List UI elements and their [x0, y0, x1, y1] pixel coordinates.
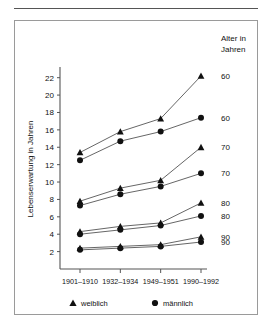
y-axis-tick-label: 2	[50, 248, 55, 257]
triangle-marker-icon	[198, 200, 205, 206]
y-axis-tick-label: 6	[50, 213, 55, 222]
circle-marker-icon	[117, 138, 123, 144]
figure-page: Alter inJahren246810121416182022Lebenser…	[0, 0, 272, 333]
y-axis-tick-label: 10	[45, 178, 54, 187]
circle-marker-icon	[158, 129, 164, 135]
circle-marker-icon	[158, 223, 164, 229]
y-axis-tick-label: 4	[50, 230, 55, 239]
series-line	[80, 173, 201, 205]
y-axis-title: Lebenserwartung in Jahren	[26, 121, 35, 218]
series-right-age-label: 60	[221, 72, 230, 81]
triangle-marker-icon	[198, 73, 205, 79]
y-axis-tick-label: 14	[45, 143, 54, 152]
y-axis-tick-label: 22	[45, 74, 54, 83]
right-axis-title-line1: Alter in	[221, 34, 246, 43]
top-divider-rule	[14, 8, 258, 9]
series-line	[80, 237, 201, 248]
y-axis-tick-label: 16	[45, 126, 54, 135]
series-right-age-label: 80	[221, 212, 230, 221]
series-right-age-label: 60	[221, 114, 230, 123]
figure-border-box: Alter inJahren246810121416182022Lebenser…	[14, 20, 258, 315]
triangle-marker-icon	[198, 233, 205, 239]
series-right-age-label: 70	[221, 143, 230, 152]
series-right-age-label: 80	[221, 199, 230, 208]
circle-marker-icon	[152, 300, 158, 306]
y-axis-tick-label: 18	[45, 108, 54, 117]
circle-marker-icon	[77, 157, 83, 163]
x-axis-category-label: 1932–1934	[102, 277, 138, 286]
x-axis-category-label: 1990–1992	[183, 277, 219, 286]
series-line	[80, 147, 201, 201]
circle-marker-icon	[198, 170, 204, 176]
x-axis-category-label: 1901–1910	[62, 277, 98, 286]
legend-entry-label: weiblich	[80, 299, 108, 308]
circle-marker-icon	[158, 243, 164, 249]
triangle-marker-icon	[69, 299, 76, 306]
y-axis-tick-label: 12	[45, 161, 54, 170]
y-axis-tick-label: 20	[45, 91, 54, 100]
legend-entry-label: männlich	[163, 299, 193, 308]
circle-marker-icon	[198, 115, 204, 121]
circle-marker-icon	[77, 231, 83, 237]
series-line	[80, 76, 201, 153]
circle-marker-icon	[117, 227, 123, 233]
series-right-age-label: 90	[221, 238, 230, 247]
circle-marker-icon	[158, 183, 164, 189]
x-axis-category-label: 1949–1951	[143, 277, 179, 286]
circle-marker-icon	[117, 191, 123, 197]
circle-marker-icon	[198, 213, 204, 219]
circle-marker-icon	[117, 245, 123, 251]
circle-marker-icon	[77, 247, 83, 253]
triangle-marker-icon	[198, 144, 205, 150]
series-right-age-label: 70	[221, 169, 230, 178]
right-axis-title-line2: Jahren	[221, 45, 245, 54]
life-expectancy-line-chart: Alter inJahren246810121416182022Lebenser…	[15, 21, 259, 316]
chart-canvas: Alter inJahren246810121416182022Lebenser…	[15, 21, 259, 316]
circle-marker-icon	[198, 239, 204, 245]
triangle-marker-icon	[117, 128, 124, 134]
triangle-marker-icon	[77, 149, 84, 155]
y-axis-tick-label: 8	[50, 195, 55, 204]
circle-marker-icon	[77, 203, 83, 209]
series-line	[80, 118, 201, 161]
